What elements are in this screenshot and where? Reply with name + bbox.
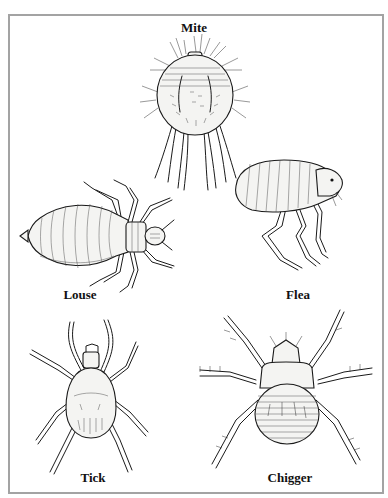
label-louse: Louse: [63, 288, 96, 301]
label-mite: Mite: [181, 21, 207, 34]
flea-illustration: [236, 160, 343, 270]
label-flea: Flea: [286, 288, 310, 301]
parasite-illustrations: [0, 0, 388, 498]
label-chigger: Chigger: [268, 471, 313, 484]
label-tick: Tick: [80, 471, 105, 484]
louse-illustration: [20, 180, 174, 292]
tick-illustration: [30, 320, 148, 474]
chigger-illustration: [200, 310, 372, 468]
mite-illustration: [140, 34, 250, 190]
